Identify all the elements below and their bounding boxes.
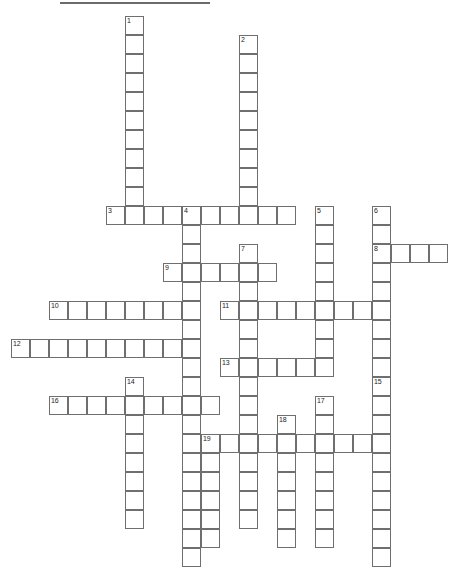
crossword-cell[interactable] xyxy=(239,434,258,453)
crossword-cell[interactable] xyxy=(239,111,258,130)
crossword-cell[interactable] xyxy=(125,396,144,415)
crossword-cell[interactable] xyxy=(372,434,391,453)
crossword-cell[interactable] xyxy=(239,510,258,529)
crossword-cell[interactable]: 6 xyxy=(372,206,391,225)
crossword-cell[interactable] xyxy=(201,396,220,415)
crossword-cell[interactable] xyxy=(163,206,182,225)
crossword-cell[interactable]: 18 xyxy=(277,415,296,434)
crossword-cell[interactable] xyxy=(87,396,106,415)
crossword-cell[interactable] xyxy=(163,301,182,320)
crossword-grid[interactable]: 12345681579101112131416171819 xyxy=(0,0,465,569)
crossword-cell[interactable] xyxy=(372,320,391,339)
crossword-cell[interactable] xyxy=(125,301,144,320)
crossword-cell[interactable] xyxy=(125,54,144,73)
crossword-cell[interactable] xyxy=(201,263,220,282)
crossword-cell[interactable] xyxy=(201,529,220,548)
crossword-cell[interactable] xyxy=(258,301,277,320)
crossword-cell[interactable] xyxy=(125,111,144,130)
crossword-cell[interactable]: 15 xyxy=(372,377,391,396)
crossword-cell[interactable] xyxy=(182,263,201,282)
crossword-cell[interactable] xyxy=(125,187,144,206)
crossword-cell[interactable] xyxy=(125,491,144,510)
crossword-cell[interactable] xyxy=(372,529,391,548)
crossword-cell[interactable] xyxy=(182,225,201,244)
crossword-cell[interactable] xyxy=(277,472,296,491)
crossword-cell[interactable] xyxy=(315,529,334,548)
crossword-cell[interactable] xyxy=(315,415,334,434)
crossword-cell[interactable] xyxy=(315,453,334,472)
crossword-cell[interactable] xyxy=(239,73,258,92)
crossword-cell[interactable] xyxy=(239,263,258,282)
crossword-cell[interactable] xyxy=(106,339,125,358)
crossword-cell[interactable] xyxy=(182,434,201,453)
crossword-cell[interactable] xyxy=(391,244,410,263)
crossword-cell[interactable] xyxy=(353,434,372,453)
crossword-cell[interactable] xyxy=(315,225,334,244)
crossword-cell[interactable] xyxy=(125,149,144,168)
crossword-cell[interactable] xyxy=(201,491,220,510)
crossword-cell[interactable] xyxy=(277,301,296,320)
crossword-cell[interactable] xyxy=(372,548,391,567)
crossword-cell[interactable] xyxy=(182,491,201,510)
crossword-cell[interactable] xyxy=(125,415,144,434)
crossword-cell[interactable] xyxy=(277,434,296,453)
crossword-cell[interactable] xyxy=(144,339,163,358)
crossword-cell[interactable]: 19 xyxy=(201,434,220,453)
crossword-cell[interactable]: 3 xyxy=(106,206,125,225)
crossword-cell[interactable] xyxy=(315,491,334,510)
crossword-cell[interactable] xyxy=(296,301,315,320)
crossword-cell[interactable] xyxy=(125,472,144,491)
crossword-cell[interactable] xyxy=(239,320,258,339)
crossword-cell[interactable] xyxy=(315,510,334,529)
crossword-cell[interactable]: 16 xyxy=(49,396,68,415)
crossword-cell[interactable] xyxy=(258,358,277,377)
crossword-cell[interactable] xyxy=(220,434,239,453)
crossword-cell[interactable] xyxy=(182,548,201,567)
crossword-cell[interactable] xyxy=(125,339,144,358)
crossword-cell[interactable] xyxy=(372,396,391,415)
crossword-cell[interactable] xyxy=(372,510,391,529)
crossword-cell[interactable] xyxy=(372,225,391,244)
crossword-cell[interactable] xyxy=(296,434,315,453)
crossword-cell[interactable] xyxy=(315,301,334,320)
crossword-cell[interactable]: 17 xyxy=(315,396,334,415)
crossword-cell[interactable] xyxy=(372,301,391,320)
crossword-cell[interactable] xyxy=(68,396,87,415)
crossword-cell[interactable] xyxy=(239,358,258,377)
crossword-cell[interactable] xyxy=(182,396,201,415)
crossword-cell[interactable] xyxy=(239,377,258,396)
crossword-cell[interactable] xyxy=(201,206,220,225)
crossword-cell[interactable] xyxy=(125,434,144,453)
crossword-cell[interactable] xyxy=(239,453,258,472)
crossword-cell[interactable] xyxy=(125,35,144,54)
crossword-cell[interactable] xyxy=(315,339,334,358)
crossword-cell[interactable] xyxy=(182,320,201,339)
crossword-cell[interactable] xyxy=(125,168,144,187)
crossword-cell[interactable] xyxy=(315,282,334,301)
crossword-cell[interactable] xyxy=(125,453,144,472)
crossword-cell[interactable] xyxy=(182,282,201,301)
crossword-cell[interactable] xyxy=(182,529,201,548)
crossword-cell[interactable] xyxy=(372,453,391,472)
crossword-cell[interactable] xyxy=(372,263,391,282)
crossword-cell[interactable] xyxy=(239,396,258,415)
crossword-cell[interactable] xyxy=(239,54,258,73)
crossword-cell[interactable] xyxy=(182,472,201,491)
crossword-cell[interactable] xyxy=(315,263,334,282)
crossword-cell[interactable] xyxy=(315,320,334,339)
crossword-cell[interactable] xyxy=(372,472,391,491)
crossword-cell[interactable] xyxy=(334,301,353,320)
crossword-cell[interactable] xyxy=(372,491,391,510)
crossword-cell[interactable] xyxy=(258,434,277,453)
crossword-cell[interactable] xyxy=(125,510,144,529)
crossword-cell[interactable] xyxy=(239,130,258,149)
crossword-cell[interactable] xyxy=(239,282,258,301)
crossword-cell[interactable] xyxy=(410,244,429,263)
crossword-cell[interactable] xyxy=(372,282,391,301)
crossword-cell[interactable] xyxy=(315,434,334,453)
crossword-cell[interactable] xyxy=(182,415,201,434)
crossword-cell[interactable] xyxy=(68,301,87,320)
crossword-cell[interactable]: 14 xyxy=(125,377,144,396)
crossword-cell[interactable]: 13 xyxy=(220,358,239,377)
crossword-cell[interactable] xyxy=(334,434,353,453)
